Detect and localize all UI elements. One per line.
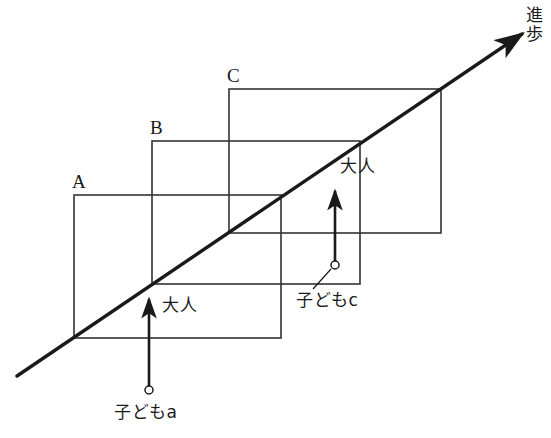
child-point-a (145, 386, 153, 394)
growth-vector-c (313, 191, 339, 289)
stage-label-A: A (72, 172, 86, 191)
progress-arrow (17, 34, 522, 376)
child-label-c: 子どもc (296, 292, 358, 309)
adult-label-c: 大人 (340, 158, 375, 175)
growth-vector-a (145, 299, 153, 394)
progress-stages-diagram: A B C 進歩 大人 子どもa 大人 子どもc (0, 0, 551, 438)
progress-axis-label: 進歩 (524, 6, 542, 44)
diagram-canvas (0, 0, 551, 438)
child-point-c (331, 261, 339, 269)
adult-label-a: 大人 (162, 297, 197, 314)
leader-line-c (313, 269, 331, 289)
child-label-a: 子どもa (114, 404, 177, 421)
stage-label-B: B (150, 118, 163, 137)
stage-label-C: C (227, 66, 240, 85)
